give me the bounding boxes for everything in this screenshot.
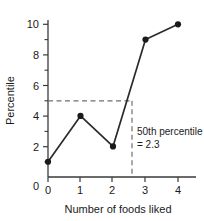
y-axis-title: Percentile [4,76,16,125]
y-tick-label-4: 4 [33,110,39,122]
annotation-line-2: = 2.3 [137,139,160,150]
chart-figure: 10 8 6 4 2 0 Percentile 0 1 2 3 4 Number… [0,0,204,221]
x-tick-label-4: 4 [175,184,181,196]
y-tick-label-8: 8 [33,49,39,61]
y-tick-label-2: 2 [33,141,39,153]
y-axis-major-ticks [43,24,48,146]
axis-lines [48,20,196,177]
x-axis-ticks [48,177,178,182]
y-axis-tick-labels: 10 8 6 4 2 0 [27,18,39,192]
chart-canvas: 10 8 6 4 2 0 Percentile 0 1 2 3 4 Number… [0,0,204,221]
annotation-line-1: 50th percentile [137,126,203,137]
x-axis-title: Number of foods liked [65,203,172,215]
y-tick-label-10: 10 [27,18,39,30]
data-point-marker [175,21,181,27]
x-tick-label-2: 2 [109,184,115,196]
data-point-markers [45,21,181,165]
median-guide-lines [48,101,132,177]
y-tick-label-0: 0 [33,180,39,192]
x-tick-label-0: 0 [45,184,51,196]
x-tick-label-3: 3 [142,184,148,196]
data-point-marker [77,113,83,119]
data-point-marker [110,143,116,149]
data-point-marker [45,159,51,165]
y-tick-label-6: 6 [33,80,39,92]
median-annotation: 50th percentile = 2.3 [137,126,203,150]
x-axis-tick-labels: 0 1 2 3 4 [45,184,181,196]
data-point-marker [142,36,148,42]
x-tick-label-1: 1 [77,184,83,196]
